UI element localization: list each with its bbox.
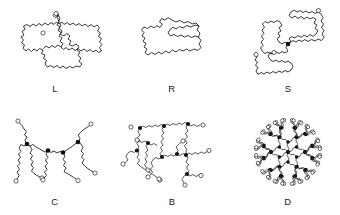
panel-label-linear: L [52, 83, 58, 94]
branched-junction [162, 124, 166, 128]
dendrimer-endcap [311, 171, 314, 174]
dendrimer-endcap [273, 179, 276, 182]
dendrimer-endcap [255, 146, 258, 149]
linear-endcap [41, 31, 45, 35]
dendrimer-endcap [266, 125, 269, 128]
branched-endcap [146, 168, 150, 172]
branched-junction [175, 152, 179, 156]
dendrimer-endcap [300, 121, 303, 124]
dendrimer-endcap [316, 163, 319, 166]
branched-junction [185, 172, 189, 176]
dendrimer-endcap [306, 125, 309, 128]
star-endcap [316, 8, 320, 12]
branched-junction [135, 148, 139, 152]
branched-endcap [121, 162, 125, 166]
figure-canvas: L R S [0, 0, 340, 215]
comb-endcap [93, 171, 97, 175]
panel-label-branched: B [169, 196, 176, 207]
comb-endcap [89, 122, 93, 126]
dendrimer-core [286, 150, 290, 154]
branched-junction [146, 141, 150, 145]
comb-endcap [76, 178, 80, 182]
dendrimer-endcap [318, 147, 321, 150]
dendrimer-endcap [281, 119, 284, 122]
dendrimer-endcap [254, 153, 257, 156]
branched-endcap [181, 139, 185, 143]
panel-label-star: S [285, 83, 292, 94]
dendrimer-endcap [312, 131, 315, 134]
branched-endcap [146, 175, 150, 179]
dendrimer-endcap [261, 170, 264, 173]
dendrimer-endcap [290, 182, 293, 185]
star-endcap [254, 52, 258, 56]
branched-endcap [207, 148, 211, 152]
dendrimer-endcap [256, 161, 259, 164]
branched-endcap [183, 183, 187, 187]
branched-junction [186, 122, 190, 126]
comb-endcap [16, 119, 20, 123]
dendrimer-endcap [273, 121, 276, 124]
dendrimer-endcap [266, 175, 269, 178]
branched-endcap [157, 177, 161, 181]
branched-endcap [201, 123, 205, 127]
linear-endcap [54, 11, 58, 15]
dendrimer-endcap [281, 182, 284, 185]
branched-endcap [129, 125, 133, 129]
branched-endcap [135, 138, 139, 142]
comb-endcap [14, 179, 18, 183]
branched-junction [138, 126, 142, 130]
comb-junction [61, 150, 66, 155]
panel-label-comb: C [51, 196, 58, 207]
dendrimer-endcap [318, 155, 321, 158]
dendrimer-endcap [292, 119, 295, 122]
panel-label-ring: R [168, 83, 175, 94]
comb-junction [46, 148, 51, 153]
dendrimer-endcap [257, 138, 260, 141]
branched-junction [160, 155, 164, 159]
dendrimer-endcap [305, 176, 308, 179]
comb-junction [25, 142, 30, 147]
dendrimer-endcap [261, 131, 264, 134]
comb-endcap [41, 178, 45, 182]
dendrimer-endcap [316, 139, 319, 142]
branched-endcap [199, 173, 203, 177]
dendrimer-endcap [298, 180, 301, 183]
polymer-architecture-figure: L R S [0, 0, 340, 215]
star-endcap [272, 50, 276, 54]
panel-label-dendrimer: D [284, 196, 291, 207]
branched-junction [184, 153, 188, 157]
comb-junction [76, 140, 81, 145]
figure-background [0, 0, 340, 215]
